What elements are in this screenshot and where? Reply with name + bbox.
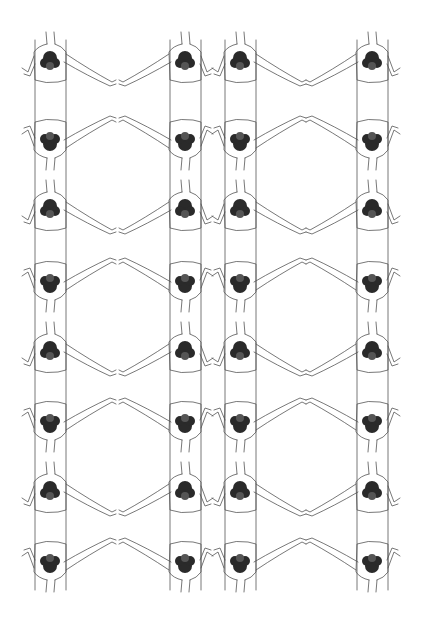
figure-tile: [212, 322, 306, 376]
figure-tile: [119, 462, 213, 516]
figure-tile: [119, 116, 213, 170]
figure-tile: [212, 462, 306, 516]
figure-tile: [22, 462, 116, 516]
figure-tile: [306, 398, 400, 452]
figure-tile: [22, 32, 116, 86]
figure-tile: [119, 258, 213, 312]
figure-tile: [212, 258, 306, 312]
figure-tile: [306, 116, 400, 170]
figure-tile: [119, 32, 213, 86]
figure-tile: [212, 32, 306, 86]
figure-tile: [22, 322, 116, 376]
figure-tile: [22, 180, 116, 234]
figure-tile: [306, 180, 400, 234]
figure-tile: [306, 538, 400, 592]
figure-tile: [306, 32, 400, 86]
figure-tile: [212, 180, 306, 234]
figure-tile: [22, 258, 116, 312]
figure-tile: [306, 258, 400, 312]
figure-tile: [22, 398, 116, 452]
figure-tile: [119, 538, 213, 592]
figure-tile: [212, 398, 306, 452]
figure-tile: [306, 322, 400, 376]
figure-tile: [212, 116, 306, 170]
figure-tile: [119, 398, 213, 452]
pattern-artwork: [0, 0, 430, 631]
figure-tile: [306, 462, 400, 516]
figure-tile: [119, 180, 213, 234]
figure-tile: [22, 116, 116, 170]
figure-tile: [22, 538, 116, 592]
figure-tile: [119, 322, 213, 376]
figure-tile: [212, 538, 306, 592]
